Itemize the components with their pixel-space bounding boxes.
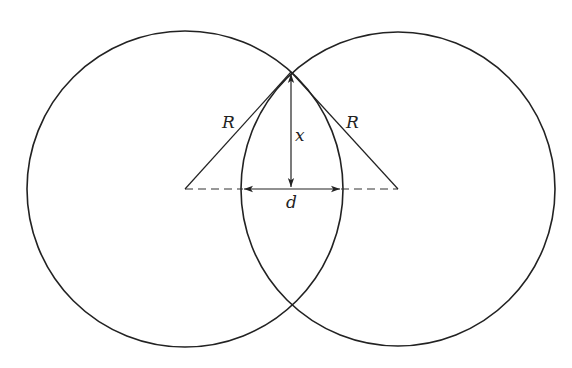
label-width-d: d [286,192,297,212]
radius-line-left [185,72,291,189]
label-radius-right: R [345,112,359,132]
label-radius-left: R [221,112,235,132]
overlapping-circles-diagram: R R x d [0,0,572,368]
diagram-canvas: R R x d [0,0,572,368]
radius-line-right [291,72,398,189]
label-height-x: x [295,125,305,145]
